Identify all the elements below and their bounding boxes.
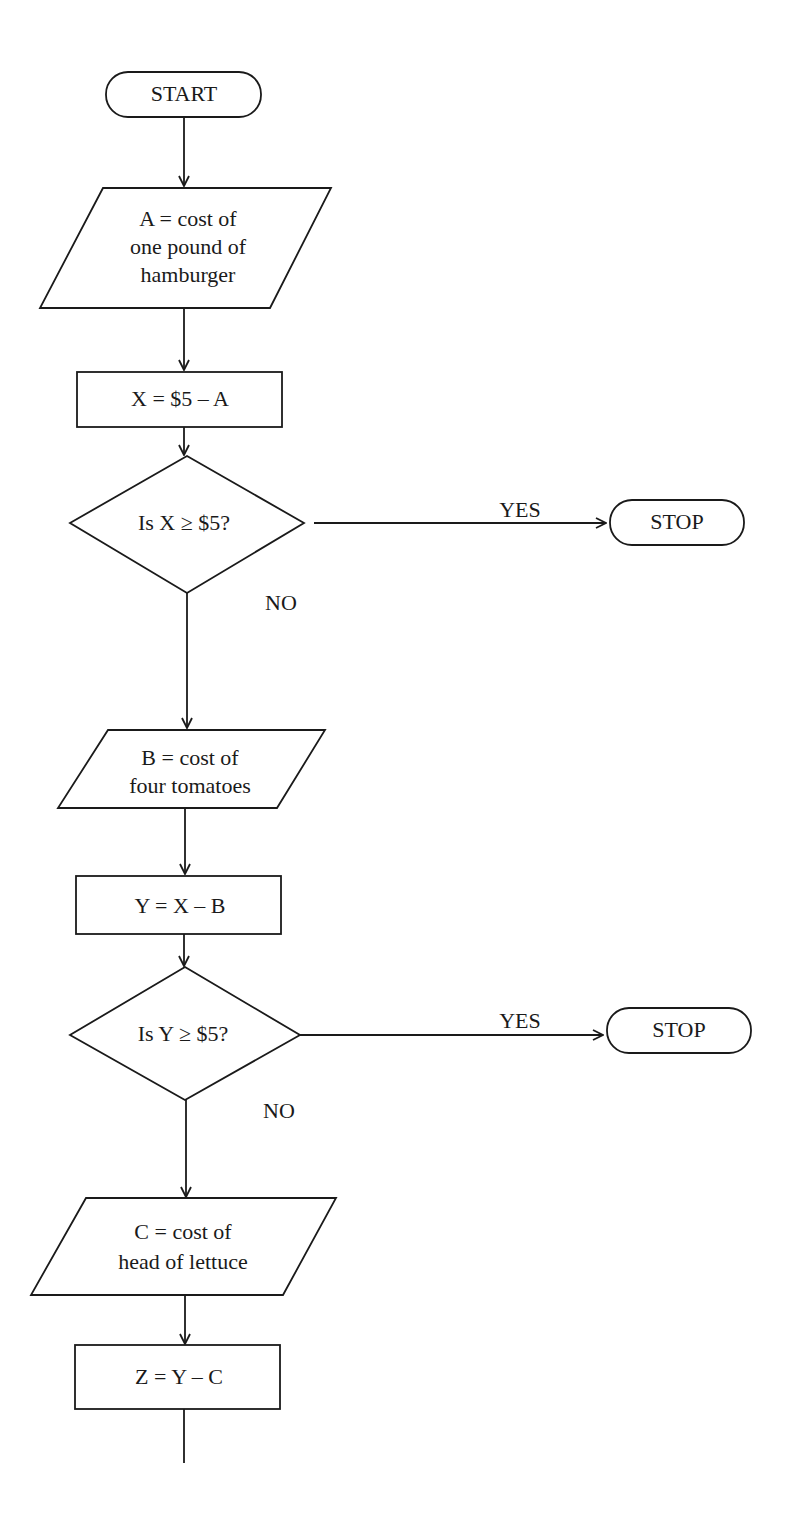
decision-x-yes-label: YES (499, 496, 541, 524)
input-b-line-1: B = cost of (141, 744, 238, 772)
input-a-line-1: A = cost of (139, 205, 236, 233)
input-a-line-2: one pound of (130, 233, 246, 261)
flowchart-canvas (0, 0, 787, 1529)
input-c-parallelogram (31, 1198, 336, 1295)
process-y-label: Y = X – B (134, 892, 225, 920)
process-z-label: Z = Y – C (135, 1363, 223, 1391)
decision-x-label: Is X ≥ $5? (138, 509, 230, 537)
start-label: START (151, 80, 218, 108)
input-c-line-1: C = cost of (134, 1218, 231, 1246)
process-x-label: X = $5 – A (131, 385, 229, 413)
input-c-line-2: head of lettuce (118, 1248, 248, 1276)
stop-2-label: STOP (652, 1016, 705, 1044)
input-b-line-2: four tomatoes (129, 772, 251, 800)
decision-x-no-label: NO (265, 589, 297, 617)
input-a-line-3: hamburger (141, 261, 236, 289)
decision-y-no-label: NO (263, 1097, 295, 1125)
stop-1-label: STOP (650, 508, 703, 536)
decision-y-label: Is Y ≥ $5? (138, 1020, 228, 1048)
decision-y-yes-label: YES (499, 1007, 541, 1035)
